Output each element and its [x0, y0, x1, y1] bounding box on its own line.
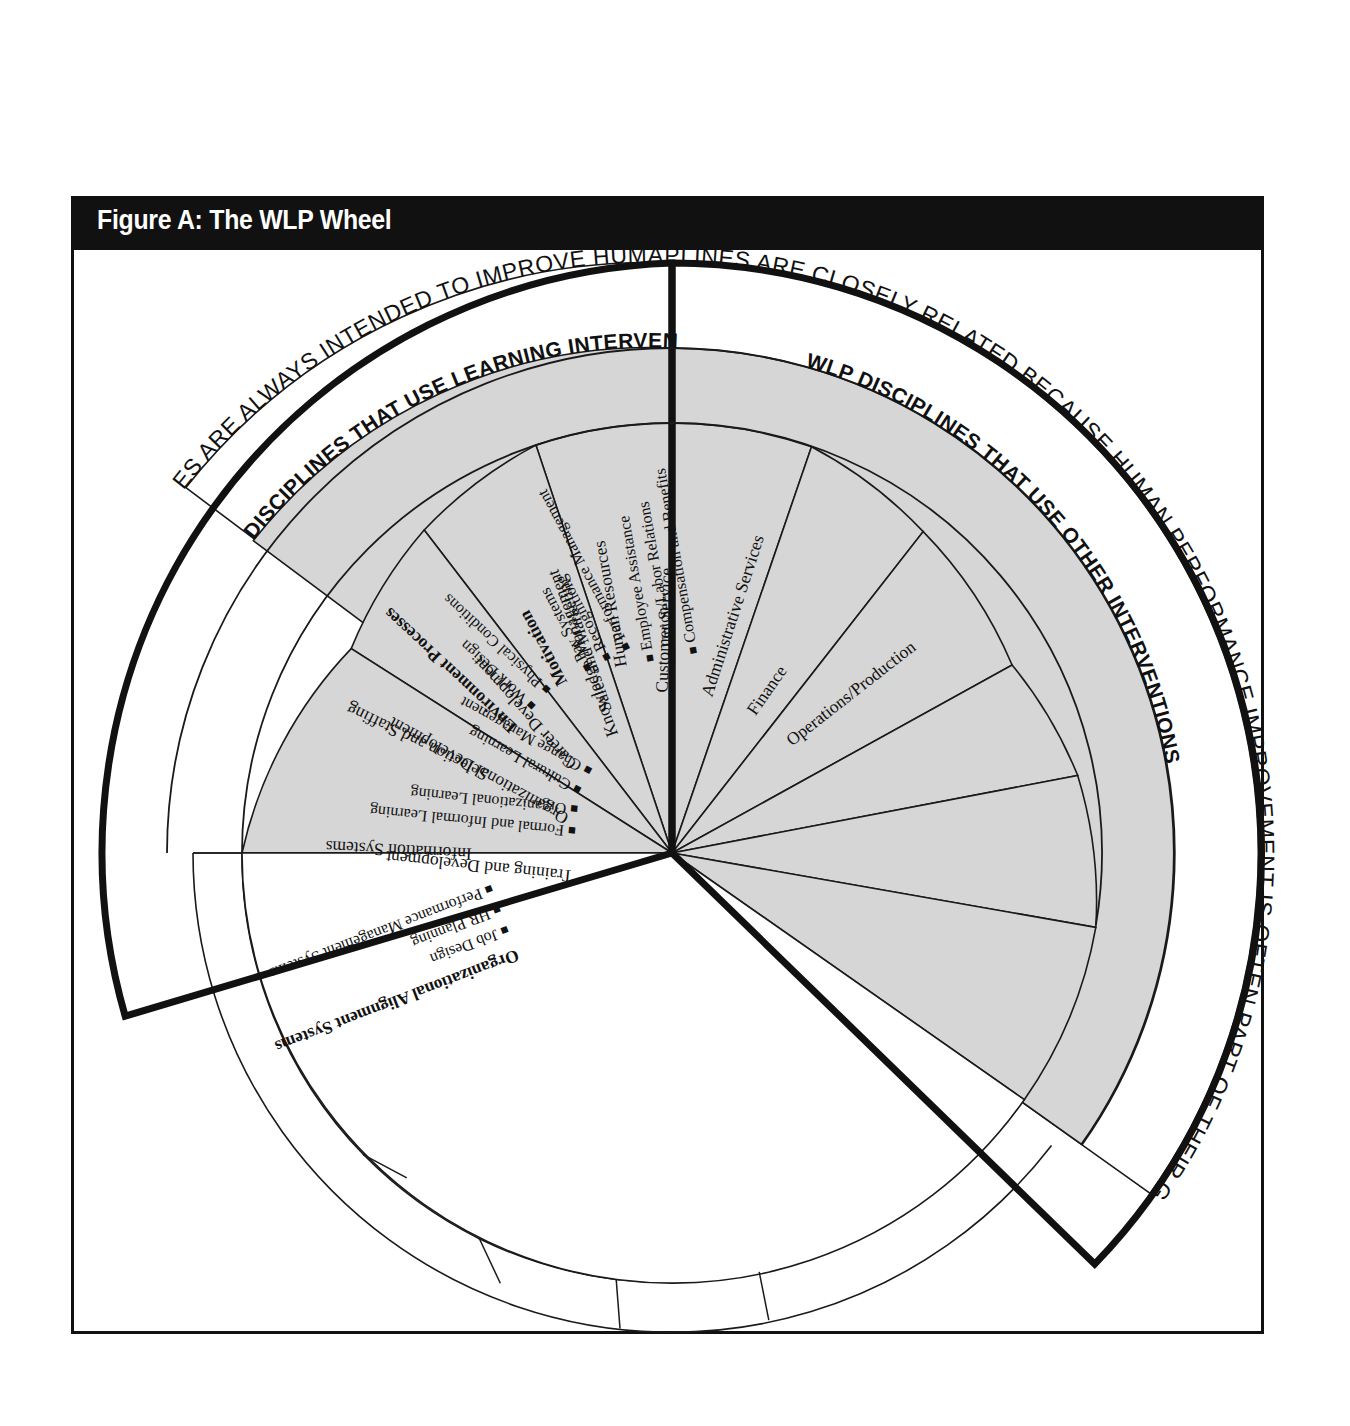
bottom-divider-4: [759, 1272, 769, 1320]
bottom-divider-3: [616, 1279, 620, 1328]
figure-canvas: Figure A: The WLP Wheel: [0, 0, 1350, 1426]
wlp-wheel-diagram: THESE DISCIPLINES ARE ALWAYS INTENDED TO…: [0, 0, 1350, 1426]
